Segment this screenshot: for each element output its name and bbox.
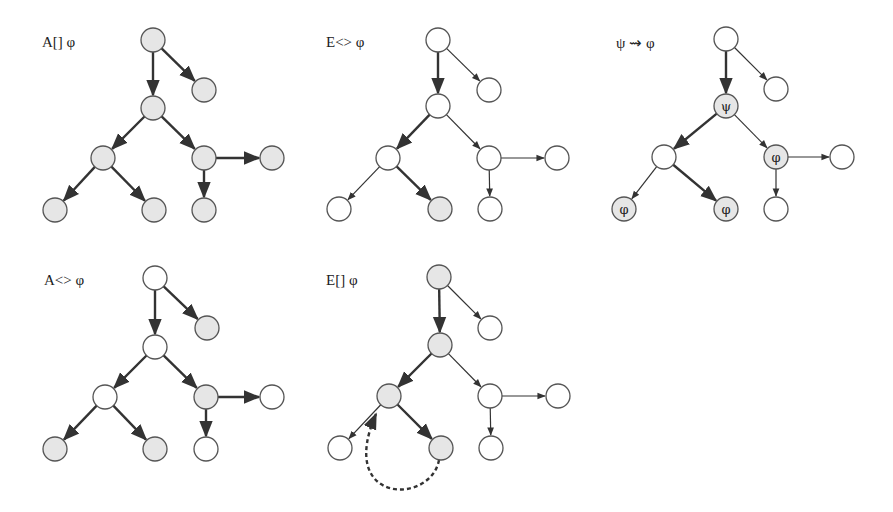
loop-back-edge xyxy=(366,414,439,489)
state-node xyxy=(546,384,570,408)
state-node xyxy=(260,385,284,409)
node-label: φ xyxy=(771,150,780,165)
edge-arrow xyxy=(113,406,146,440)
node-label: φ xyxy=(721,202,730,217)
state-node xyxy=(479,436,503,460)
state-node xyxy=(43,437,67,461)
state-node xyxy=(545,146,569,170)
state-node xyxy=(192,78,216,102)
state-node xyxy=(143,437,167,461)
state-node xyxy=(194,385,218,409)
state-node xyxy=(327,197,351,221)
state-node xyxy=(714,27,738,51)
edge-arrow xyxy=(439,289,440,332)
edge-arrow xyxy=(397,166,431,199)
state-node xyxy=(477,146,501,170)
state-node xyxy=(478,316,502,340)
state-node xyxy=(764,77,788,101)
state-node xyxy=(194,437,218,461)
panel-ef xyxy=(327,28,569,221)
panel-leadsto: ψφφφ xyxy=(612,27,854,221)
formula-label-leadsto: ψ ⇝ φ xyxy=(616,34,655,52)
state-node xyxy=(141,96,165,120)
edge-arrow xyxy=(447,48,480,80)
edge-arrow xyxy=(734,47,766,79)
state-node xyxy=(143,266,167,290)
edge-arrow xyxy=(632,167,657,199)
edge-arrow xyxy=(447,285,480,318)
edge-arrow xyxy=(112,116,144,148)
edge-arrow xyxy=(64,406,97,440)
node-label: φ xyxy=(619,202,628,217)
ctl-diagram-canvas: ψφφφ xyxy=(0,0,893,512)
state-node xyxy=(377,384,401,408)
state-node xyxy=(477,78,501,102)
state-node xyxy=(427,265,451,289)
state-node xyxy=(428,197,452,221)
state-node xyxy=(830,145,854,169)
edge-arrow xyxy=(489,170,490,196)
state-node xyxy=(143,335,167,359)
formula-label-af: A<> φ xyxy=(44,272,84,289)
formula-label-eg: E[] φ xyxy=(326,272,358,289)
state-node xyxy=(192,198,216,222)
edge-arrow xyxy=(348,167,380,200)
edge-arrow xyxy=(446,115,479,149)
edge-arrow xyxy=(397,404,431,438)
edge-arrow xyxy=(674,114,717,149)
edge-arrow xyxy=(398,353,431,386)
formula-label-ef: E<> φ xyxy=(326,34,365,51)
state-node xyxy=(429,436,453,460)
edge-arrow xyxy=(673,165,716,201)
edge-arrow xyxy=(448,354,480,387)
edge-arrow xyxy=(162,48,195,80)
state-node xyxy=(478,197,502,221)
edge-arrow xyxy=(64,167,95,201)
edge-arrow xyxy=(164,286,198,319)
state-node xyxy=(478,384,502,408)
edge-arrow xyxy=(114,355,146,387)
edge-arrow xyxy=(162,116,195,148)
formula-label-ag: A[] φ xyxy=(42,34,75,51)
edge-arrow xyxy=(734,115,766,148)
edge-arrow xyxy=(349,405,381,439)
node-label: ψ xyxy=(721,99,731,114)
state-node xyxy=(142,198,166,222)
state-node xyxy=(192,146,216,170)
state-node xyxy=(141,28,165,52)
state-node xyxy=(328,436,352,460)
state-node xyxy=(764,197,788,221)
edge-arrow xyxy=(490,408,491,435)
edge-arrow xyxy=(164,355,197,387)
state-node xyxy=(93,385,117,409)
edge-arrow xyxy=(397,115,430,149)
state-node xyxy=(376,146,400,170)
panel-eg xyxy=(328,265,570,489)
state-node xyxy=(426,28,450,52)
state-node xyxy=(260,146,284,170)
state-node xyxy=(652,145,676,169)
panel-af xyxy=(43,266,284,461)
panel-ag xyxy=(43,28,284,222)
state-node xyxy=(43,198,67,222)
edge-arrow xyxy=(111,167,144,201)
state-node xyxy=(426,94,450,118)
state-node xyxy=(91,146,115,170)
state-node xyxy=(428,333,452,357)
state-node xyxy=(195,316,219,340)
